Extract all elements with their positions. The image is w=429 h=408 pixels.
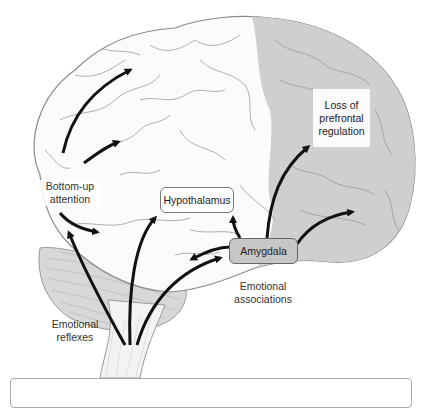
prefrontal-line2: prefrontal <box>319 112 363 125</box>
prefrontal-line3: regulation <box>318 125 364 138</box>
prefrontal-line1: Loss of <box>325 99 359 112</box>
emotional-assoc-line2: associations <box>228 293 298 306</box>
prefrontal-regulation-box: Loss of prefrontal regulation <box>313 89 370 147</box>
hypothalamus-label: Hypothalamus <box>163 194 230 206</box>
label-emotional-reflexes: Emotional reflexes <box>45 318 105 344</box>
amygdala-box: Amygdala <box>229 238 298 264</box>
emotional-assoc-line1: Emotional <box>228 280 298 293</box>
label-bottom-up-attention: Bottom-up attention <box>40 180 100 206</box>
bottom-up-line1: Bottom-up <box>40 180 100 193</box>
amygdala-label: Amygdala <box>240 245 287 257</box>
brainstem <box>100 300 165 378</box>
bottom-up-line2: attention <box>40 193 100 206</box>
label-emotional-associations: Emotional associations <box>228 280 298 306</box>
hypothalamus-box: Hypothalamus <box>160 187 234 213</box>
caption-box <box>10 378 412 408</box>
emotional-reflex-line1: Emotional <box>45 318 105 331</box>
emotional-reflex-line2: reflexes <box>45 331 105 344</box>
